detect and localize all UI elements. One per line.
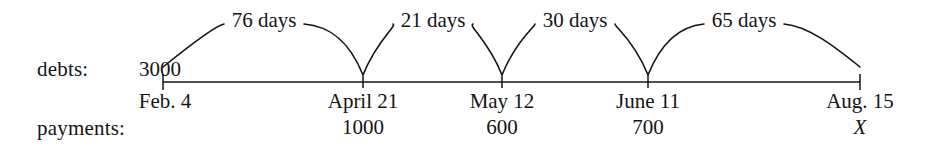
arc-left-april21-may12 xyxy=(363,24,394,75)
date-label-feb-4: Feb. 4 xyxy=(139,89,192,114)
debt-amount-feb-4: 3000 xyxy=(139,57,181,82)
payment-amount-april-21: 1000 xyxy=(342,115,384,140)
payments-row-label: payments: xyxy=(37,116,125,141)
debts-row-label: debts: xyxy=(37,57,88,82)
days-label-may12-june11: 30 days xyxy=(538,8,613,33)
arc-right-feb4-april21 xyxy=(304,24,363,75)
days-label-june11-aug15: 65 days xyxy=(707,8,782,33)
arc-left-june11-aug15 xyxy=(648,24,704,75)
timeline-figure: debts: payments: 3000 76 days21 days30 d… xyxy=(0,0,936,150)
date-label-aug-15: Aug. 15 xyxy=(826,89,894,114)
arc-left-may12-june11 xyxy=(502,24,535,75)
payment-amount-june-11: 700 xyxy=(632,115,664,140)
arc-right-april21-may12 xyxy=(472,24,502,75)
arc-right-june11-aug15 xyxy=(784,24,860,67)
date-label-may-12: May 12 xyxy=(470,89,535,114)
days-label-april21-may12: 21 days xyxy=(396,8,471,33)
payment-amount-may-12: 600 xyxy=(486,115,518,140)
timeline-axis xyxy=(163,74,860,90)
date-label-june-11: June 11 xyxy=(616,89,680,114)
days-label-feb4-april21: 76 days xyxy=(227,8,302,33)
date-label-april-21: April 21 xyxy=(328,89,399,114)
arc-right-may12-june11 xyxy=(615,24,648,75)
payment-amount-aug-15: X xyxy=(854,115,867,140)
